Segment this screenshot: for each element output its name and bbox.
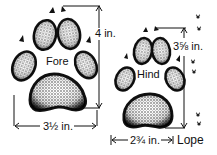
hind-height-label: 3⅝ in. [172,41,204,52]
fore-height-label: 4 in. [94,28,117,39]
lope-track-icon [191,15,201,126]
diagram-svg [0,0,217,155]
fore-paw-label: Fore [46,56,69,67]
gait-label: Lope [176,135,205,146]
hind-paw-label: Hind [136,69,161,80]
paw-track-diagram: Fore 4 in. 3½ in. Hind 3⅝ in. 2¾ in. Lop… [0,0,217,155]
hind-width-label: 2¾ in. [129,135,161,146]
fore-width-label: 3½ in. [42,121,74,132]
